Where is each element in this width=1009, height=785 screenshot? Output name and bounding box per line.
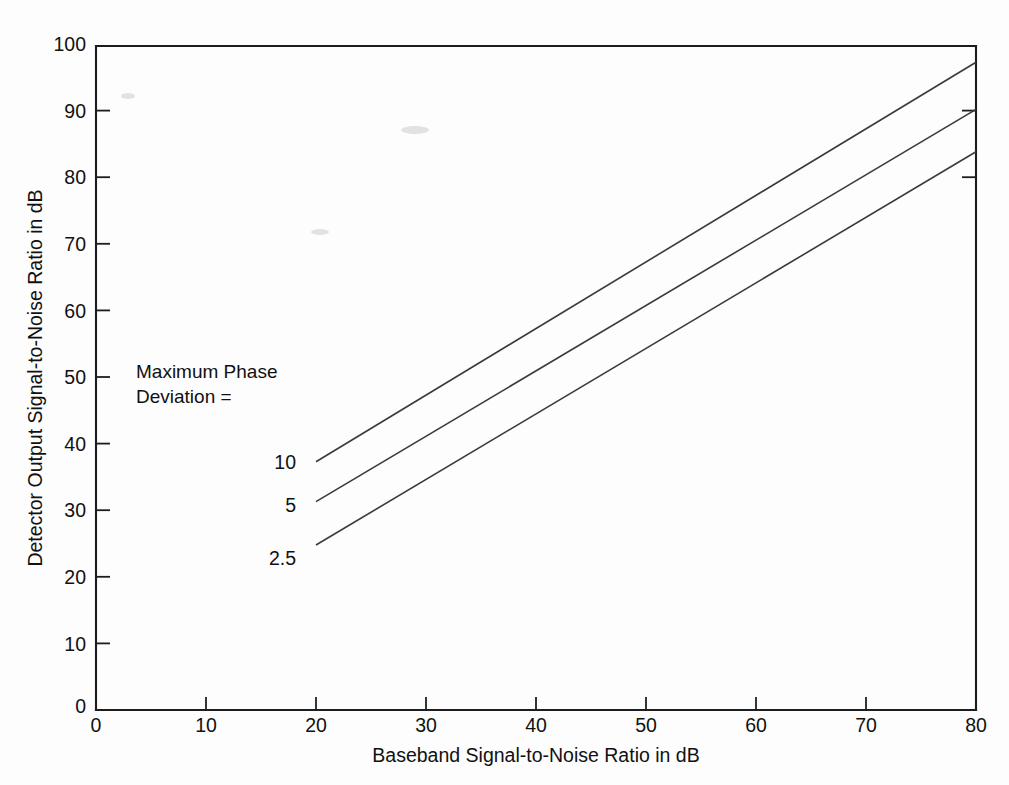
y-axis-title: Detector Output Signal-to-Noise Ratio in… (24, 189, 46, 566)
y-tick-labels: 100 90 80 70 60 50 40 30 20 10 0 (53, 33, 86, 717)
x-tick-label: 30 (415, 714, 437, 736)
y-tick-label: 30 (64, 499, 86, 521)
series-labels: 10 5 2.5 (269, 451, 296, 569)
series-line-5 (316, 109, 976, 501)
y-tick-label: 40 (64, 433, 86, 455)
series-label-5: 5 (285, 494, 296, 516)
y-tick-label: 90 (64, 100, 86, 122)
y-tick-label: 0 (75, 695, 86, 717)
y-tick-label: 10 (64, 633, 86, 655)
x-tick-label: 20 (305, 714, 327, 736)
chart-canvas: 100 90 80 70 60 50 40 30 20 10 0 0 10 20… (0, 0, 1009, 785)
right-axis-ticks (962, 111, 976, 178)
x-tick-label: 50 (635, 714, 657, 736)
x-tick-label: 80 (965, 714, 987, 736)
series-label-2.5: 2.5 (269, 547, 296, 569)
scan-artifacts (121, 93, 429, 235)
y-axis-ticks (96, 111, 110, 644)
y-tick-label: 50 (64, 366, 86, 388)
plot-annotation: Maximum Phase Deviation = (136, 361, 278, 407)
x-axis-title: Baseband Signal-to-Noise Ratio in dB (372, 744, 699, 766)
annotation-line-1: Maximum Phase (136, 361, 278, 382)
chart-figure: 100 90 80 70 60 50 40 30 20 10 0 0 10 20… (0, 0, 1009, 785)
x-tick-label: 60 (745, 714, 767, 736)
y-tick-label: 70 (64, 233, 86, 255)
y-tick-label: 60 (64, 300, 86, 322)
annotation-line-2: Deviation = (136, 386, 232, 407)
x-tick-labels: 0 10 20 30 40 50 60 70 80 (91, 714, 987, 736)
x-tick-label: 0 (91, 714, 102, 736)
series-label-10: 10 (274, 451, 296, 473)
x-tick-label: 10 (195, 714, 217, 736)
data-series (316, 62, 976, 545)
series-line-10 (316, 62, 976, 462)
x-tick-label: 70 (855, 714, 877, 736)
x-tick-label: 40 (525, 714, 547, 736)
y-tick-label: 80 (64, 166, 86, 188)
y-tick-label: 20 (64, 566, 86, 588)
y-tick-label: 100 (53, 33, 86, 55)
series-line-2.5 (316, 152, 976, 545)
x-axis-ticks (206, 697, 866, 710)
